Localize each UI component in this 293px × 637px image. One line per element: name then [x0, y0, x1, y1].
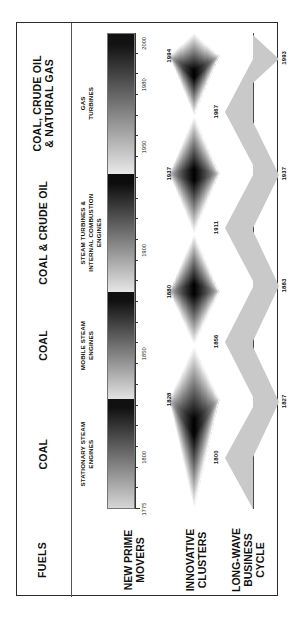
long-wave-downswing-triangle [253, 347, 279, 457]
axis-tick-minor [135, 405, 138, 406]
new-prime-movers-row-label: NEW PRIMEMOVERS [123, 523, 147, 597]
long-wave-trough-year-label: 1937 [281, 163, 287, 185]
long-wave-downswing-triangle [253, 231, 279, 341]
axis-tick-minor [135, 260, 138, 261]
long-wave-peak-year-label: 1800 [213, 446, 219, 468]
long-wave-row-label: LONG-WAVEBUSINESSCYCLE [231, 523, 266, 597]
innovative-cluster-year-label: 1828 [166, 388, 172, 410]
axis-tick-label: 2000 [141, 30, 147, 56]
prime-mover-label-3: STEAM TURBINES &INTERNAL COMBUSTIONENGIN… [79, 173, 102, 293]
innovative-cluster-lens [169, 33, 219, 116]
innovative-clusters-row-label: INNOVATIVECLUSTERS [185, 523, 209, 597]
axis-tick-label: 1980 [141, 72, 147, 98]
fuels-divider [71, 23, 72, 597]
axis-tick-minor [135, 280, 138, 281]
innovative-cluster-lens [169, 346, 219, 509]
axis-tick-label: 1950 [141, 134, 147, 160]
axis-tick-minor [135, 239, 138, 240]
prime-mover-label-4: GASTURBINES [79, 43, 95, 163]
axis-tick-minor [135, 53, 138, 54]
fuel-era-label-3: COAL & CRUDE OIL [37, 158, 49, 308]
long-wave-upswing-triangle [225, 175, 253, 281]
axis-tick-minor [135, 446, 138, 447]
time-axis [135, 33, 136, 509]
axis-tick-minor [135, 342, 138, 343]
long-wave-upswing-triangle [225, 59, 253, 165]
innovative-cluster-lens [169, 116, 219, 234]
innovative-cluster-year-label: 1937 [166, 163, 172, 185]
axis-tick-minor [135, 425, 138, 426]
axis-tick-minor [135, 301, 138, 302]
axis-tick-minor [135, 135, 138, 136]
innovative-cluster-year-label: 1994 [166, 45, 172, 67]
long-wave-trough-year-label: 1993 [281, 47, 287, 69]
axis-tick-minor [135, 94, 138, 95]
axis-tick-minor [135, 363, 138, 364]
fuel-era-label-4: COAL, CRUDE OIL& NATURAL GAS [31, 28, 55, 178]
long-wave-downswing-triangle [253, 122, 279, 228]
axis-tick-minor [135, 177, 138, 178]
axis-tick-minor [135, 467, 138, 468]
fuels-row: FUELS COAL COAL COAL & CRUDE OIL COAL, C… [17, 23, 71, 597]
axis-tick-minor [135, 73, 138, 74]
axis-tick-label: 1800 [141, 444, 147, 470]
long-wave-peak-year-label: 1911 [213, 217, 219, 239]
axis-tick-minor [135, 322, 138, 323]
figure-page: FUELS COAL COAL COAL & CRUDE OIL COAL, C… [0, 0, 293, 637]
long-wave-downswing-triangle [253, 35, 279, 83]
axis-tick-minor [135, 487, 138, 488]
prime-mover-label-1: STATIONARY STEAMENGINES [79, 394, 95, 514]
axis-tick-minor [135, 198, 138, 199]
long-wave-upswing-triangle [225, 407, 253, 509]
new-prime-movers-row: NEW PRIMEMOVERS STATIONARY STEAMENGINES … [73, 23, 161, 597]
innovative-cluster-lens [169, 234, 219, 346]
rotated-chart-canvas: FUELS COAL COAL COAL & CRUDE OIL COAL, C… [17, 23, 276, 597]
axis-tick-minor [135, 384, 138, 385]
gradient-bar-border [107, 33, 135, 509]
axis-tick-label: 1775 [141, 496, 147, 522]
axis-tick-label: 1900 [141, 237, 147, 263]
long-wave-trough-year-label: 1883 [281, 275, 287, 297]
innovative-cluster-year-label: 1880 [166, 281, 172, 303]
prime-mover-label-2: MOBILE STEAMENGINES [79, 286, 95, 406]
long-wave-peak-year-label: 1967 [213, 101, 219, 123]
diffusion-gradient-bar [107, 33, 135, 509]
long-wave-trough-year-label: 1827 [281, 390, 287, 412]
axis-tick-minor [135, 115, 138, 116]
axis-tick-minor [135, 156, 138, 157]
fuels-row-label: FUELS [37, 523, 49, 597]
long-wave-upswing-triangle [225, 287, 253, 397]
axis-tick-major [135, 508, 140, 509]
long-wave-peak-year-label: 1856 [213, 330, 219, 352]
axis-tick-minor [135, 218, 138, 219]
axis-tick-label: 1850 [141, 341, 147, 367]
long-wave-business-cycle-row: LONG-WAVEBUSINESSCYCLE 18001856191119671… [223, 23, 276, 597]
figure-frame: FUELS COAL COAL COAL & CRUDE OIL COAL, C… [16, 22, 278, 596]
